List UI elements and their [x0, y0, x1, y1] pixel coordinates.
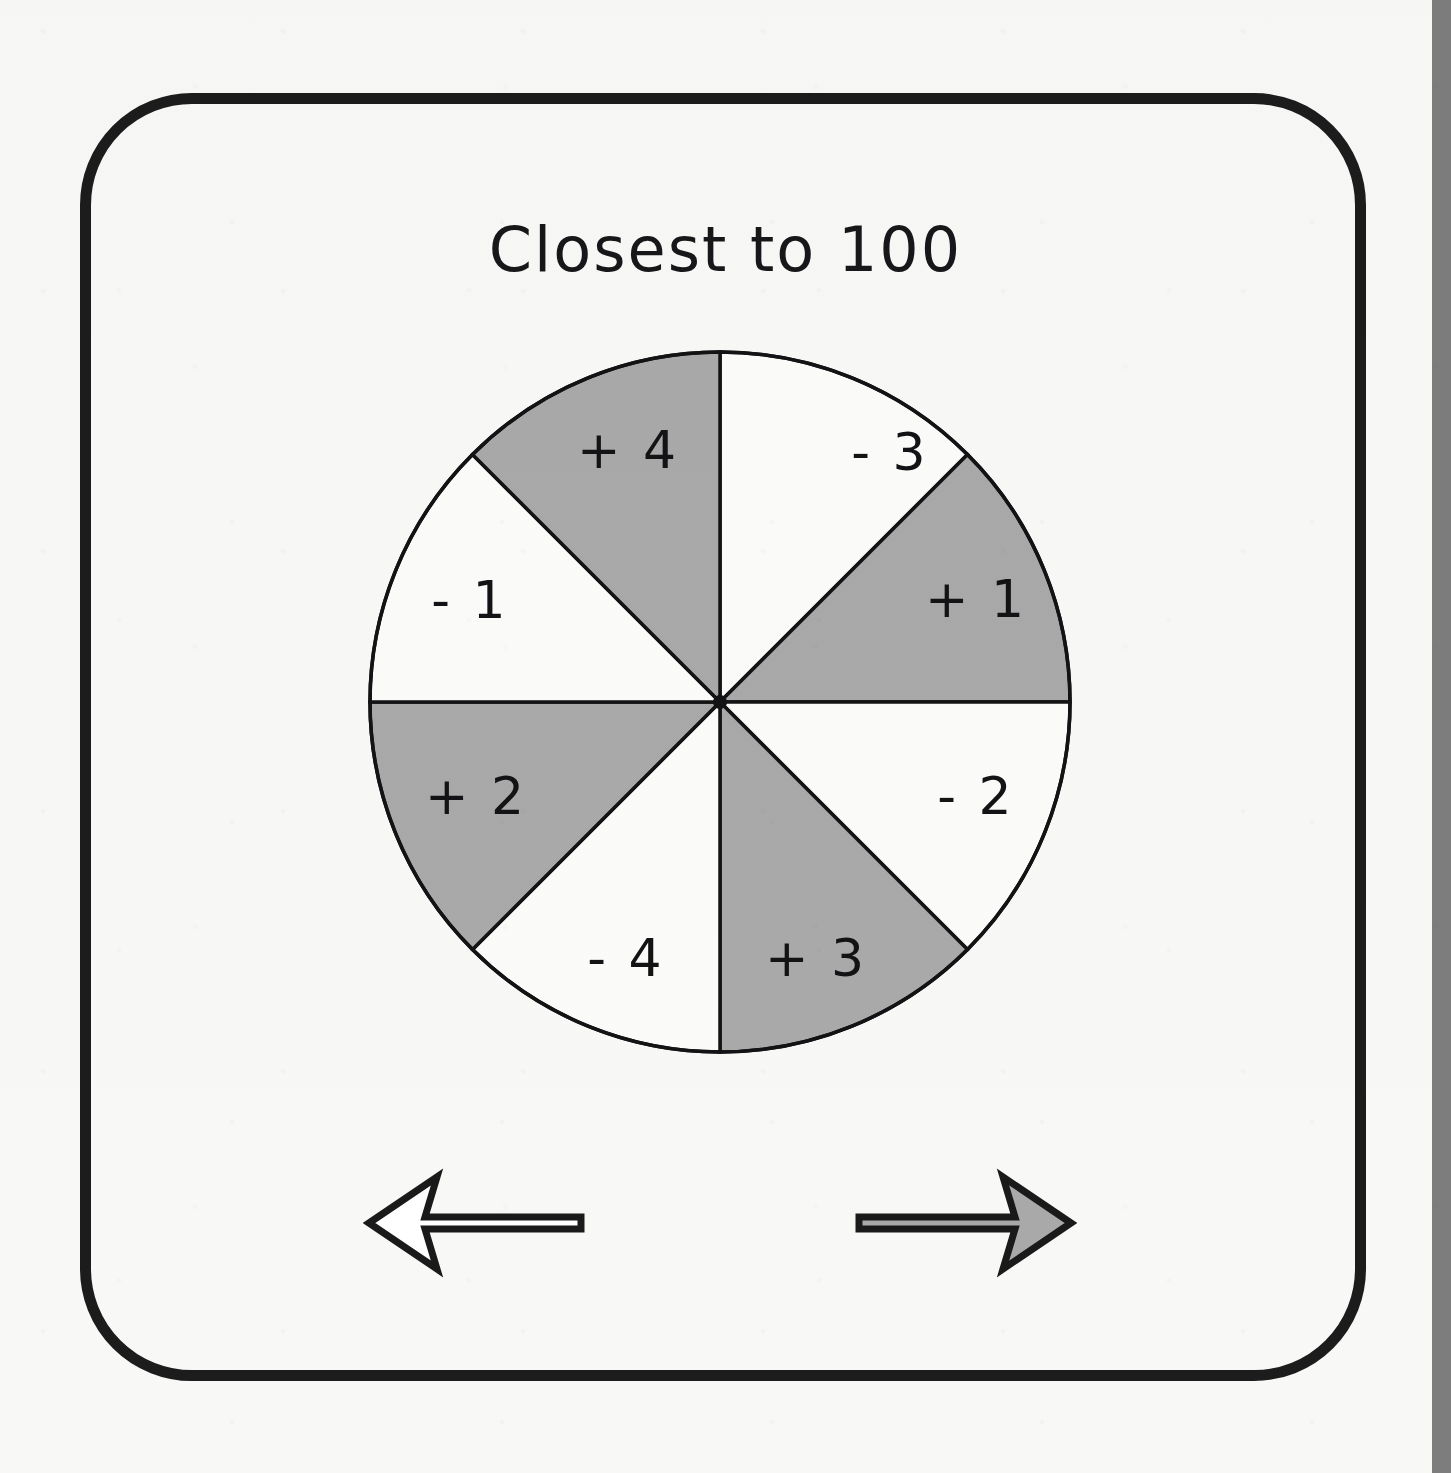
- spinner-label--1: - 1: [431, 570, 508, 630]
- spinner-center-hub: [713, 695, 727, 709]
- spinner-label--2: - 2: [937, 766, 1014, 826]
- arrow-left-icon[interactable]: [363, 1163, 588, 1283]
- spinner-label-+4: + 4: [577, 420, 679, 480]
- previous-button[interactable]: [363, 1163, 588, 1283]
- closest-to-100-spinner[interactable]: - 3 + 1 - 2 + 3 - 4 + 2 - 1 + 4: [368, 350, 1072, 1054]
- arrow-left-shape: [369, 1177, 581, 1269]
- navigation-arrow-row: [0, 1163, 1451, 1293]
- spinner-label-+1: + 1: [925, 569, 1027, 629]
- spinner-label-+2: + 2: [425, 766, 527, 826]
- spinner-label-+3: + 3: [765, 928, 867, 988]
- spinner-label--4: - 4: [587, 928, 664, 988]
- spinner-label--3: - 3: [851, 422, 928, 482]
- next-button[interactable]: [852, 1163, 1077, 1283]
- page-title: Closest to 100: [0, 213, 1451, 286]
- arrow-right-icon[interactable]: [852, 1163, 1077, 1283]
- arrow-right-shape: [859, 1177, 1071, 1269]
- right-edge-strip: [1432, 0, 1451, 1473]
